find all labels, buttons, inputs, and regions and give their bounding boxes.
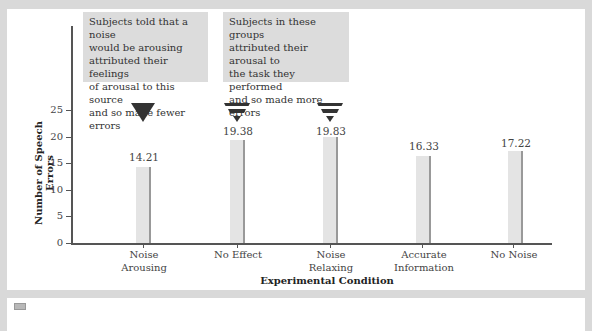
bar-value-label: 19.38 xyxy=(213,125,263,137)
category-label-line: No Noise xyxy=(469,248,559,261)
bottom-strip xyxy=(7,298,585,331)
category-label-line: Noise xyxy=(286,248,376,261)
category-label-noise-arousing: Noise Arousing xyxy=(99,248,189,274)
category-label-line: Accurate xyxy=(379,248,469,261)
callout-line: attributed their feelings xyxy=(89,54,202,80)
category-label-line: Arousing xyxy=(99,261,189,274)
bar-no-effect xyxy=(230,140,245,243)
bar-value-label: 17.22 xyxy=(491,137,541,149)
category-label-line: Noise xyxy=(99,248,189,261)
category-label-noise-relaxing: Noise Relaxing xyxy=(286,248,376,274)
bar-noise-arousing xyxy=(136,167,151,243)
bar-accurate-information xyxy=(416,156,431,243)
y-tick xyxy=(66,190,71,191)
bar-value-label: 16.33 xyxy=(399,140,449,152)
callout-line: attributed their arousal to xyxy=(229,41,343,67)
bar-no-noise xyxy=(508,151,523,243)
category-label-line: Information xyxy=(379,261,469,274)
y-axis xyxy=(71,26,73,244)
callout-line: would be arousing xyxy=(89,41,202,54)
x-axis-title: Experimental Condition xyxy=(247,275,407,286)
category-label-line: No Effect xyxy=(193,248,283,261)
down-arrow-striped-icon xyxy=(317,103,343,123)
figure-icon xyxy=(14,303,26,310)
chart: Subjects told that a noise would be arou… xyxy=(7,9,585,290)
callout-line: the task they performed xyxy=(229,67,343,93)
callout-fewer-errors: Subjects told that a noise would be arou… xyxy=(83,12,208,82)
y-tick-label: 0 xyxy=(47,238,63,248)
category-label-no-noise: No Noise xyxy=(469,248,559,261)
category-label-accurate-information: Accurate Information xyxy=(379,248,469,274)
down-arrow-solid-icon xyxy=(131,103,155,122)
callout-more-errors: Subjects in these groups attributed thei… xyxy=(223,12,349,82)
category-label-no-effect: No Effect xyxy=(193,248,283,261)
y-tick xyxy=(66,163,71,164)
category-label-line: Relaxing xyxy=(286,261,376,274)
callout-line: Subjects in these groups xyxy=(229,15,343,41)
bar-value-label: 14.21 xyxy=(119,151,169,163)
down-arrow-striped-icon xyxy=(224,103,250,123)
y-tick xyxy=(66,216,71,217)
y-axis-title: Number of Speech Errors xyxy=(33,108,55,238)
y-tick xyxy=(66,243,71,244)
bar-value-label: 19.83 xyxy=(306,125,356,137)
bar-noise-relaxing xyxy=(323,137,338,243)
callout-line: Subjects told that a noise xyxy=(89,15,202,41)
y-tick xyxy=(66,110,71,111)
y-tick xyxy=(66,137,71,138)
